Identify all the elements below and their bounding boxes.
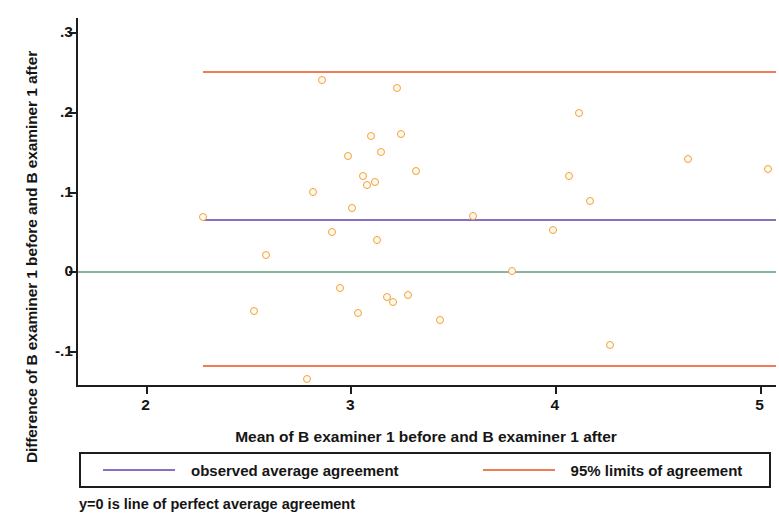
reference-line-perfect-average-agreement [78, 271, 776, 273]
data-point [393, 84, 401, 92]
x-axis-tick [146, 385, 148, 394]
y-axis-tick-label: 0 [64, 262, 73, 280]
data-point [404, 291, 412, 299]
legend-swatch-line-icon [483, 469, 555, 471]
data-point [328, 228, 336, 236]
data-point [436, 316, 444, 324]
data-point [377, 148, 385, 156]
x-axis-tick-label: 3 [346, 396, 355, 414]
data-point [412, 167, 420, 175]
x-axis-tick-label: 2 [141, 396, 150, 414]
legend-label: 95% limits of agreement [571, 462, 743, 479]
legend-label: observed average agreement [191, 462, 399, 479]
data-point [397, 130, 405, 138]
x-axis-tick-label: 5 [755, 396, 764, 414]
data-point [309, 188, 317, 196]
y-axis-tick-label: .1 [60, 183, 73, 201]
data-point [354, 309, 362, 317]
legend-item-observed-average-agreement: observed average agreement [103, 462, 399, 479]
reference-line-upper-limit-of-agreement [203, 71, 776, 73]
chart-footnote: y=0 is line of perfect average agreement [79, 496, 355, 512]
chart-legend: observed average agreement 95% limits of… [79, 452, 771, 488]
x-axis-tick [350, 385, 352, 394]
data-point [586, 197, 594, 205]
data-point [549, 226, 557, 234]
plot-canvas [78, 18, 776, 385]
data-point [250, 307, 258, 315]
data-point [389, 298, 397, 306]
data-point [262, 251, 270, 259]
data-point [318, 76, 326, 84]
data-point [508, 267, 516, 275]
data-point [344, 152, 352, 160]
reference-line-lower-limit-of-agreement [203, 365, 776, 367]
x-axis-tick [760, 385, 762, 394]
plot-area: .3.2.10-.12345 [76, 18, 776, 387]
y-axis-tick-label: .2 [60, 103, 73, 121]
legend-item-limits-of-agreement: 95% limits of agreement [483, 462, 743, 479]
data-point [367, 132, 375, 140]
x-axis-tick [555, 385, 557, 394]
x-axis-title: Mean of B examiner 1 before and B examin… [76, 428, 776, 446]
data-point [303, 375, 311, 383]
data-point [348, 204, 356, 212]
data-point [575, 109, 583, 117]
data-point [371, 178, 379, 186]
data-point [565, 172, 573, 180]
data-point [373, 236, 381, 244]
data-point [359, 172, 367, 180]
y-axis-tick-label: -.1 [55, 342, 73, 360]
y-axis-tick-label: .3 [60, 23, 73, 41]
y-axis-title: Difference of B examiner 1 before and B … [23, 0, 41, 517]
legend-swatch-line-icon [103, 469, 175, 471]
x-axis-tick-label: 4 [551, 396, 560, 414]
bland-altman-plot: Difference of B examiner 1 before and B … [0, 0, 779, 526]
data-point [363, 181, 371, 189]
data-point [764, 165, 772, 173]
reference-line-observed-average-agreement [203, 219, 776, 221]
data-point [684, 155, 692, 163]
data-point [336, 284, 344, 292]
data-point [606, 341, 614, 349]
